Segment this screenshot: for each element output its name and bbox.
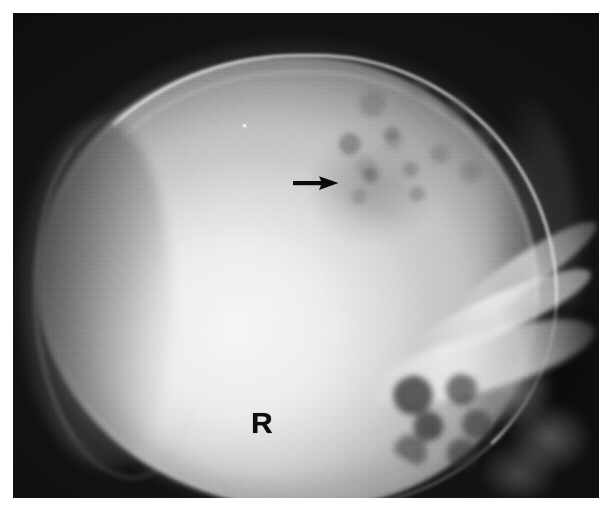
emulsion-speck <box>262 388 265 391</box>
facial-bones <box>470 362 599 498</box>
emulsion-speck <box>243 124 246 127</box>
radiograph-figure: R <box>0 0 611 509</box>
radiograph-plate <box>13 13 599 498</box>
lesion-pointer-arrow-icon <box>293 175 339 191</box>
lytic-lesion-mottling <box>324 115 441 212</box>
right-side-marker: R <box>251 408 273 438</box>
